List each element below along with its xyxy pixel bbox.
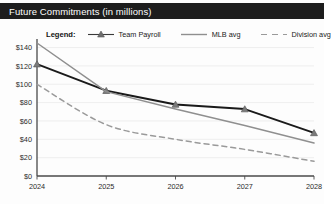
chart-plot-area: $0$20$40$60$80$100$120$140 2024202520262…: [0, 19, 324, 204]
y-axis-tick-label: $100: [16, 80, 32, 89]
series-line-2: [37, 43, 314, 143]
x-axis-tick-label: 2024: [29, 182, 45, 191]
x-axis-tick-label: 2026: [167, 182, 183, 191]
y-axis-tick-label: $40: [20, 135, 32, 144]
y-axis-tick-label: $0: [24, 172, 32, 181]
y-axis-tick-label: $140: [16, 43, 32, 52]
y-axis-tick-label: $120: [16, 62, 32, 71]
x-axis-ticks: 20242025202620272028: [29, 176, 322, 191]
series-line-1: [37, 64, 314, 133]
window-title-bar: Future Commitments (in millions): [0, 3, 324, 19]
page-title: Future Commitments (in millions): [0, 6, 152, 17]
line-chart: $0$20$40$60$80$100$120$140 2024202520262…: [0, 19, 324, 204]
x-axis-tick-label: 2028: [306, 182, 322, 191]
data-point-marker: [34, 61, 41, 67]
x-axis-tick-label: 2025: [98, 182, 114, 191]
series-line-3: [37, 84, 314, 161]
y-axis-tick-label: $20: [20, 153, 32, 162]
y-axis-tick-label: $80: [20, 98, 32, 107]
chart-series: [34, 43, 318, 161]
y-axis-tick-label: $60: [20, 117, 32, 126]
x-axis-tick-label: 2027: [237, 182, 253, 191]
y-axis-ticks: $0$20$40$60$80$100$120$140: [16, 43, 32, 180]
